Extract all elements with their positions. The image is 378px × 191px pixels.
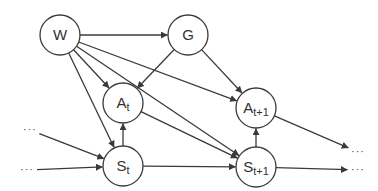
causal-graph-diagram: WGAtAt+1StSt+1 ············ [0, 0, 378, 191]
node-at1: At+1 [236, 88, 276, 128]
edge-g-to-at1 [202, 50, 242, 93]
edge-at-to-st1 [141, 112, 238, 158]
edge-st1-to-out-lower [276, 168, 348, 170]
edge-in-lower-to-st [37, 167, 103, 170]
edge-w-to-at1 [79, 42, 237, 101]
node-label: G [182, 26, 194, 43]
node-label: W [53, 26, 68, 43]
edge-g-to-at [137, 50, 174, 89]
node-at: At [103, 83, 143, 123]
node-g: G [168, 15, 208, 55]
ellipsis-in-upper: ··· [23, 123, 37, 135]
edge-st-to-st1 [143, 166, 236, 167]
edge-at1-to-out-upper [274, 116, 348, 148]
edge-in-upper-to-st [39, 134, 104, 159]
node-st1: St+1 [236, 147, 276, 187]
graph-canvas: WGAtAt+1StSt+1 ············ [0, 0, 378, 191]
ellipses-layer: ············ [20, 123, 365, 175]
ellipsis-out-upper: ··· [351, 145, 365, 157]
ellipsis-out-lower: ··· [351, 163, 365, 175]
edges-layer [37, 35, 348, 170]
ellipsis-in-lower: ··· [20, 163, 34, 175]
node-w: W [40, 15, 80, 55]
node-st: St [103, 146, 143, 186]
edge-w-to-st1 [77, 46, 239, 155]
